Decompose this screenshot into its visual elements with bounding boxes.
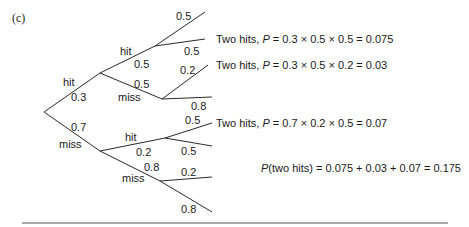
label-miss-hit: hit [125, 131, 137, 143]
prob-hit-1: 0.3 [71, 91, 86, 103]
prob-miss-hit-lower: 0.5 [181, 145, 196, 157]
label-hit-hit: hit [120, 45, 132, 57]
prob-hit-miss-upper: 0.2 [180, 64, 195, 76]
prob-hit-hit-upper: 0.5 [176, 10, 191, 22]
prob-miss-1: 0.7 [71, 121, 86, 133]
prob-miss-miss: 0.8 [144, 161, 159, 173]
prob-hit-miss: 0.5 [134, 78, 149, 90]
prob-hit-miss-lower: 0.8 [191, 100, 206, 112]
label-hit-miss: miss [118, 91, 141, 103]
prob-hit-hit: 0.5 [134, 58, 149, 70]
prob-miss-hit-upper: 0.5 [185, 114, 200, 126]
part-label: (c) [12, 11, 25, 25]
label-miss-1: miss [59, 138, 82, 150]
result-miss-hit-hit: Two hits, P = 0.7 × 0.2 × 0.5 = 0.07 [216, 117, 387, 129]
edge-hit-miss-lower [162, 97, 212, 99]
prob-miss-miss-upper: 0.2 [181, 166, 196, 178]
total-probability: P(two hits) = 0.075 + 0.03 + 0.07 = 0.17… [261, 162, 461, 174]
result-hit-hit: Two hits, P = 0.3 × 0.5 × 0.5 = 0.075 [216, 33, 393, 45]
prob-miss-miss-lower: 0.8 [181, 203, 196, 215]
label-hit-1: hit [63, 76, 75, 88]
prob-miss-hit: 0.2 [136, 146, 151, 158]
result-hit-miss-hit: Two hits, P = 0.3 × 0.5 × 0.2 = 0.03 [216, 59, 387, 71]
probability-tree-diagram: (c) hit 0.3 0.7 miss hit 0.5 0.5 miss hi… [0, 0, 469, 227]
prob-hit-hit-lower: 0.5 [184, 45, 199, 57]
label-miss-miss: miss [122, 172, 145, 184]
